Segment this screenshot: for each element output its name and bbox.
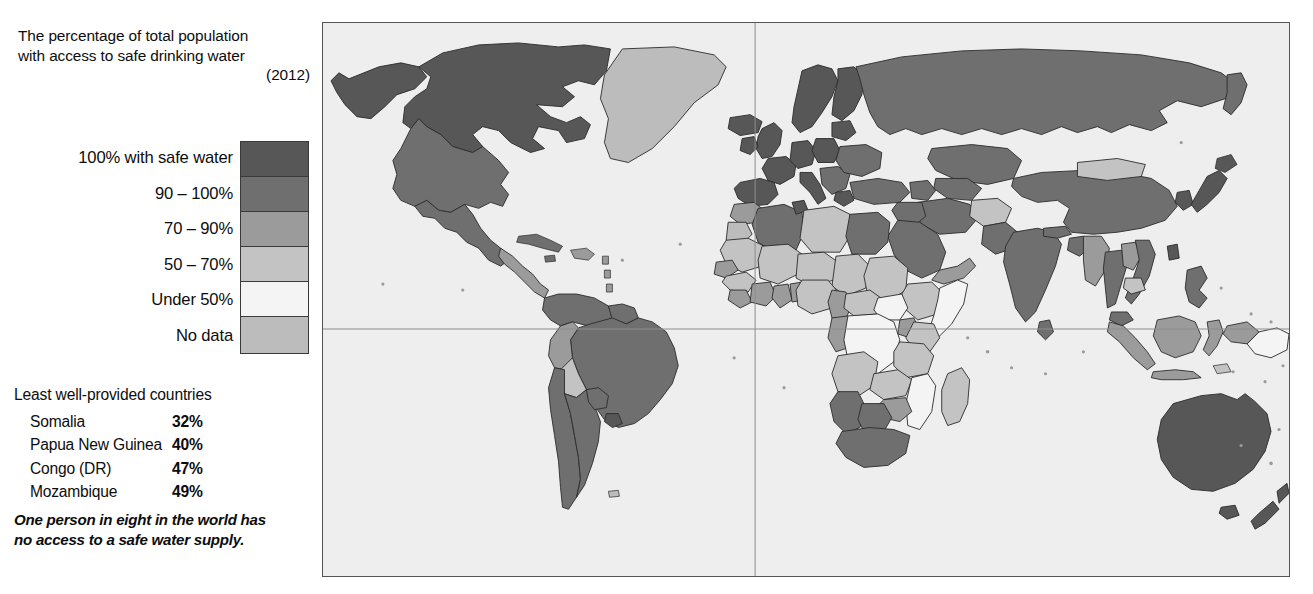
country-jamaica	[545, 255, 556, 262]
country-name: Somalia	[30, 410, 85, 433]
country-value: 47%	[172, 457, 203, 480]
country-poland	[812, 139, 840, 163]
title-line-2: with access to safe drinking water	[18, 46, 310, 66]
legend-label-column: 100% with safe water 90 – 100% 70 – 90% …	[0, 140, 233, 354]
legend-label-nodata: No data	[0, 318, 233, 354]
legend-label-pct50-70: 50 – 70%	[0, 247, 233, 283]
legend-label-pct90-100: 90 – 100%	[0, 176, 233, 212]
country-value: 32%	[172, 410, 203, 433]
footnote: One person in eight in the world has no …	[14, 510, 314, 550]
legend-swatch-pct90-100	[241, 177, 308, 212]
infographic-root: The percentage of total population with …	[0, 0, 1313, 594]
country-botswana	[858, 404, 892, 432]
country-value: 49%	[172, 480, 203, 503]
title-year: (2012)	[18, 65, 310, 85]
footnote-line-1: One person in eight in the world has	[14, 510, 314, 530]
legend-swatch-pct50-70	[241, 247, 308, 282]
world-choropleth-map	[322, 22, 1290, 577]
legend-swatch-under50	[241, 282, 308, 317]
page-title: The percentage of total population with …	[18, 26, 310, 85]
legend-swatch-pct70-90	[241, 212, 308, 247]
title-line-1: The percentage of total population	[18, 26, 310, 46]
legend-swatch-column	[240, 141, 309, 354]
legend-swatch-nodata	[241, 317, 308, 352]
least-provided-heading: Least well-provided countries	[14, 386, 212, 404]
legend-panel: The percentage of total population with …	[0, 0, 318, 594]
country-name: Congo (DR)	[30, 457, 111, 480]
legend-swatch-pct100	[241, 142, 308, 177]
legend-label-pct100: 100% with safe water	[0, 140, 233, 176]
footnote-line-2: no access to a safe water supply.	[14, 530, 314, 550]
least-provided-table: Somalia 32% Papua New Guinea 40% Congo (…	[30, 410, 280, 504]
island-falklands	[608, 490, 619, 497]
world-map-svg	[323, 23, 1289, 576]
country-value: 40%	[172, 433, 203, 456]
country-libya	[800, 206, 850, 252]
legend-label-pct70-90: 70 – 90%	[0, 211, 233, 247]
table-row: Mozambique 49%	[30, 480, 280, 503]
map-legend: 100% with safe water 90 – 100% 70 – 90% …	[0, 140, 312, 354]
legend-label-under50: Under 50%	[0, 282, 233, 318]
country-name: Mozambique	[30, 480, 117, 503]
table-row: Papua New Guinea 40%	[30, 433, 280, 456]
table-row: Somalia 32%	[30, 410, 280, 433]
table-row: Congo (DR) 47%	[30, 457, 280, 480]
country-name: Papua New Guinea	[30, 433, 162, 456]
country-taiwan	[1167, 244, 1179, 260]
